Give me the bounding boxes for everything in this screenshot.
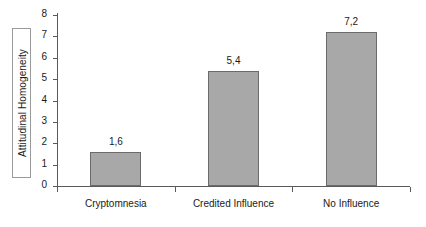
y-axis-tick-mark	[53, 36, 57, 37]
x-axis-tick-mark	[292, 187, 293, 192]
y-axis-tick-label: 6	[41, 51, 47, 62]
x-axis-tick-mark	[175, 187, 176, 192]
x-axis-category-label: Cryptomnesia	[57, 198, 175, 209]
x-axis-tick-mark	[410, 187, 411, 192]
y-axis-tick-mark	[53, 143, 57, 144]
y-axis-tick-label: 7	[41, 29, 47, 40]
bar	[208, 71, 259, 186]
bar-value-label: 5,4	[204, 55, 264, 66]
x-axis-category-label: Credited Influence	[175, 198, 293, 209]
y-axis-tick-label: 8	[41, 8, 47, 19]
y-axis-tick-label: 4	[41, 94, 47, 105]
y-axis-tick-mark	[53, 58, 57, 59]
bar	[326, 32, 377, 186]
y-axis-title: Attitudinal Homogeneity	[16, 49, 27, 157]
y-axis-tick-label: 0	[41, 179, 47, 190]
y-axis-tick-mark	[53, 122, 57, 123]
x-axis-category-label: No Influence	[292, 198, 410, 209]
y-axis-title-box: Attitudinal Homogeneity	[12, 28, 31, 178]
y-axis-tick-mark	[53, 165, 57, 166]
y-axis-tick-mark	[53, 79, 57, 80]
y-axis-tick-label: 1	[41, 158, 47, 169]
bar-value-label: 7,2	[321, 16, 381, 27]
bar	[90, 152, 141, 186]
y-axis-tick-mark	[53, 15, 57, 16]
x-axis-line	[57, 186, 410, 187]
y-axis-tick-label: 2	[41, 136, 47, 147]
y-axis-tick-mark	[53, 101, 57, 102]
y-axis-tick-label: 3	[41, 115, 47, 126]
y-axis-tick-label: 5	[41, 72, 47, 83]
bar-chart-figure: Attitudinal Homogeneity 0123456781,6Cryp…	[0, 0, 426, 227]
bar-value-label: 1,6	[86, 136, 146, 147]
y-axis-line	[57, 13, 58, 187]
x-axis-tick-mark	[57, 187, 58, 192]
